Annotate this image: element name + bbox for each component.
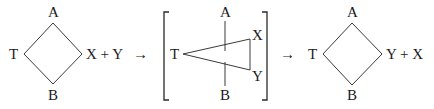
label-left: T xyxy=(170,46,179,62)
panel-1-diamond: A T B X + Y xyxy=(9,4,123,103)
transformation-diagram: A T B X + Y → A T B X Y → xyxy=(0,0,434,109)
label-lower-right: Y xyxy=(252,68,263,84)
panel-2-bracketed-triangle: A T B X Y xyxy=(164,4,267,103)
sum-label: X + Y xyxy=(86,46,123,62)
vertex-label-left: T xyxy=(9,46,18,62)
right-bracket xyxy=(262,12,267,100)
vertex-label-top: A xyxy=(347,4,358,20)
vertex-label-left: T xyxy=(308,46,317,62)
vertex-label-top: A xyxy=(48,4,59,20)
diamond-shape xyxy=(24,23,82,84)
sum-label: Y + X xyxy=(386,46,423,62)
diamond-shape xyxy=(323,23,382,85)
triangle-shape xyxy=(183,39,250,70)
diagram-canvas: A T B X + Y → A T B X Y → xyxy=(0,0,434,109)
vertex-label-bottom: B xyxy=(347,87,357,103)
label-bottom: B xyxy=(220,87,230,103)
arrow-right-icon: → xyxy=(133,46,148,62)
label-top: A xyxy=(220,4,231,20)
left-bracket xyxy=(164,12,169,100)
arrow-right-icon: → xyxy=(280,46,295,62)
panel-3-diamond: A T B Y + X xyxy=(308,4,423,103)
label-upper-right: X xyxy=(252,27,263,43)
vertex-label-bottom: B xyxy=(48,87,58,103)
